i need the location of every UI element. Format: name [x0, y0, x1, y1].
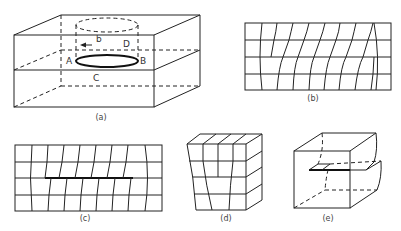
label-D: D — [123, 39, 130, 49]
label-A: A — [66, 56, 73, 66]
label-B: B — [140, 56, 146, 66]
label-b: b — [96, 34, 102, 44]
caption-a: (a) — [95, 113, 106, 122]
panel-b-grid — [245, 23, 391, 90]
panel-e-block — [294, 133, 381, 208]
arrow-icon — [80, 43, 86, 48]
panel-d-block — [187, 134, 262, 210]
panel-a-box — [14, 15, 200, 107]
label-C: C — [93, 73, 99, 83]
caption-c: (c) — [80, 214, 91, 223]
panel-c-grid — [15, 145, 162, 211]
caption-d: (d) — [220, 214, 231, 223]
caption-e: (e) — [322, 214, 333, 223]
caption-b: (b) — [307, 94, 318, 103]
dislocation-figure: A B b D C (a) (b) — [0, 0, 401, 231]
